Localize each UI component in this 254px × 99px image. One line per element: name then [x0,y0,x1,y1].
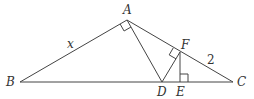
point-label-F: F [180,38,190,52]
segment-AD [127,20,162,82]
point-label-A: A [122,3,132,17]
point-label-B: B [5,75,15,89]
point-label-E: E [175,85,185,99]
segment-AB [20,20,127,82]
geometry-diagram: A B C D E F x 2 [0,0,254,99]
point-label-C: C [237,75,246,89]
triangle-figure: A B C D E F x 2 [0,0,254,99]
segment-label-AB: x [67,37,74,51]
point-label-D: D [156,85,167,99]
right-angle-marker-E [180,74,188,82]
right-angle-marker-F [169,48,176,59]
segment-label-FC: 2 [207,53,215,67]
